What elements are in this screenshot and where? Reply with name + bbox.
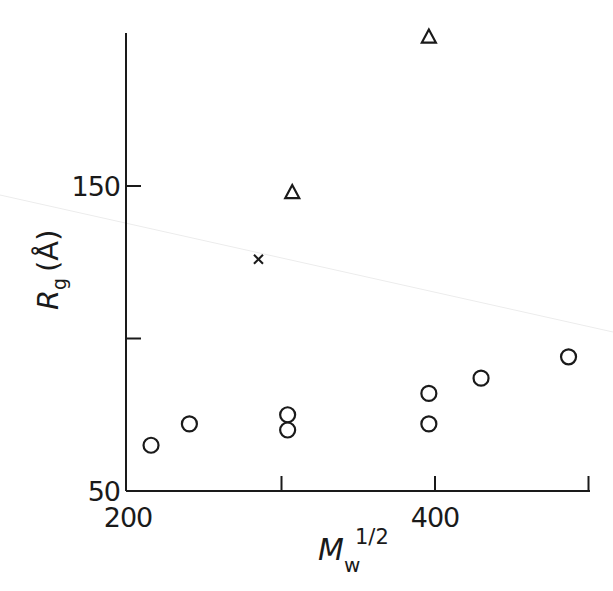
x-tick-label: 400 [411,502,460,533]
y-tick-label: 150 [71,171,120,202]
y-ticks: 50150 [71,171,141,507]
x-axis-label: M w 1/2 [318,525,389,577]
circle-marker [182,416,197,431]
y-tick-label: 50 [88,476,120,507]
circle-marker [421,416,436,431]
x-axis-label-sup: 1/2 [355,525,389,549]
y-axis-label-sub: g [48,278,70,290]
circle-marker [280,407,295,422]
triangle-marker [285,185,299,198]
x-axis-label-sub: w [344,553,360,577]
circle-marker [144,438,159,453]
x-ticks: 200400 [104,476,589,533]
triangle-marker [422,30,436,43]
y-axis-label-unit: (Å) [31,230,65,272]
scan-artifact-line [0,195,613,332]
x-axis-label-main: M [318,532,344,567]
circle-marker [561,349,576,364]
circle-marker [474,371,489,386]
circle-marker [280,423,295,438]
y-axis-label-main: R [31,290,65,310]
cross-marker [254,255,263,264]
scatter-chart: 200400 50150 M w 1/2 R g (Å) [0,0,613,591]
y-axis-label: R g (Å) [31,230,70,310]
circle-marker [421,386,436,401]
